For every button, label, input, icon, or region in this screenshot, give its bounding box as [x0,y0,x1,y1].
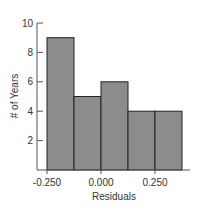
x-ticks-group: -0.2500.0000.250 [33,170,168,188]
y-tick-label-0: 2 [27,135,33,146]
bars-group [47,38,182,170]
y-axis-label: # of Years [9,74,20,118]
y-tick-label-3: 8 [27,47,33,58]
x-tick-label-1: 0.000 [88,177,113,188]
histogram-bar-4 [155,111,182,170]
y-ticks-group: 246810 [22,18,43,147]
x-tick-label-0: -0.250 [33,177,62,188]
y-tick-label-2: 6 [27,76,33,87]
histogram-bar-1 [74,97,101,171]
x-tick-label-2: 0.250 [142,177,167,188]
histogram-chart: 246810 -0.2500.0000.250 Residuals # of Y… [0,0,206,211]
histogram-bar-3 [128,111,155,170]
histogram-bar-0 [47,38,74,170]
x-axis-label: Residuals [92,191,136,202]
y-tick-label-1: 4 [27,106,33,117]
y-tick-label-4: 10 [22,18,34,29]
histogram-bar-2 [101,82,128,170]
